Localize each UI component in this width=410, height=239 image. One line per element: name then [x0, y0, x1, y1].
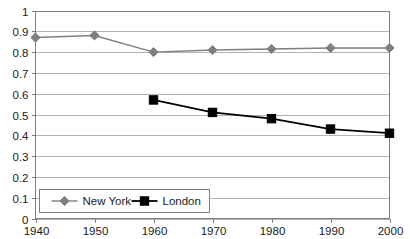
x-tick-label: 1980 [260, 225, 286, 237]
x-tick-label: 1940 [24, 225, 50, 237]
legend-item-london[interactable]: London [132, 195, 201, 207]
y-tick-label: 0.9 [13, 26, 29, 38]
legend-label: London [163, 195, 201, 207]
y-tick-label: 0.3 [13, 151, 29, 163]
legend-item-new-york[interactable]: New York [52, 195, 132, 207]
y-tick-label: 0.6 [13, 89, 29, 101]
y-tick-label: 0.7 [13, 68, 29, 80]
data-point-marker [208, 108, 216, 116]
y-tick-label: 0.4 [13, 130, 30, 142]
legend-label: New York [83, 195, 132, 207]
data-point-marker [31, 33, 40, 42]
data-point-marker [149, 96, 157, 104]
data-point-marker [267, 114, 275, 122]
x-tick-label: 1970 [201, 225, 227, 237]
data-point-marker [149, 48, 158, 57]
data-point-marker [326, 125, 334, 133]
x-tick-label: 1990 [319, 225, 345, 237]
legend-square-icon [140, 197, 148, 205]
y-tick-label: 1 [22, 6, 28, 18]
chart-container: 00.10.20.30.40.50.60.70.80.9119401950196… [0, 0, 410, 239]
y-tick-label: 0.8 [13, 47, 29, 59]
data-point-marker [208, 45, 217, 54]
series-london [149, 96, 393, 138]
data-point-marker [385, 43, 394, 52]
legend: New YorkLondon [40, 190, 210, 213]
y-tick-label: 0.5 [13, 110, 29, 122]
data-point-marker [385, 129, 393, 137]
data-point-marker [326, 43, 335, 52]
x-tick-label: 2000 [378, 225, 404, 237]
data-point-marker [90, 31, 99, 40]
x-axis-ticks: 1940195019601970198019902000 [24, 219, 404, 237]
line-chart: 00.10.20.30.40.50.60.70.80.9119401950196… [0, 0, 410, 239]
x-tick-label: 1960 [142, 225, 168, 237]
y-tick-label: 0.1 [13, 193, 29, 205]
y-tick-label: 0.2 [13, 172, 29, 184]
x-tick-label: 1950 [83, 225, 109, 237]
